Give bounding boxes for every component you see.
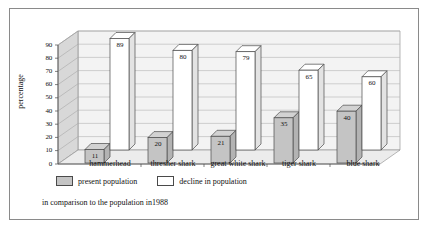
value-label-decline-4: 60 bbox=[361, 80, 383, 87]
y-tick-10: 10 bbox=[38, 147, 52, 154]
x-category-blue-shark: blue shark bbox=[323, 159, 403, 168]
chart-frame: 90 80 70 60 50 40 30 20 10 0 percentage … bbox=[9, 8, 419, 220]
y-tick-40: 40 bbox=[38, 108, 52, 115]
y-tick-80: 80 bbox=[38, 55, 52, 62]
y-tick-0: 0 bbox=[38, 161, 52, 168]
value-label-decline-3: 65 bbox=[298, 74, 320, 81]
chart-legend: present population decline in population bbox=[56, 176, 247, 186]
value-label-present-4: 40 bbox=[336, 115, 358, 122]
y-tick-90: 90 bbox=[38, 42, 52, 49]
legend-label-present: present population bbox=[78, 177, 137, 186]
legend-label-decline: decline in population bbox=[179, 177, 247, 186]
chart-stage: 90 80 70 60 50 40 30 20 10 0 percentage … bbox=[10, 9, 420, 221]
legend-item-present: present population bbox=[56, 176, 137, 186]
value-label-decline-0: 89 bbox=[109, 42, 131, 49]
legend-swatch-present bbox=[56, 176, 73, 186]
value-label-decline-1: 80 bbox=[172, 54, 194, 61]
chart-caption: in comparison to the population in1988 bbox=[42, 198, 168, 207]
legend-item-decline: decline in population bbox=[157, 176, 247, 186]
y-tick-60: 60 bbox=[38, 81, 52, 88]
y-axis-label: percentage bbox=[16, 64, 25, 120]
value-label-present-2: 21 bbox=[210, 140, 232, 147]
value-label-present-1: 20 bbox=[147, 141, 169, 148]
y-tick-20: 20 bbox=[38, 134, 52, 141]
chart-3d-canvas bbox=[10, 9, 420, 221]
y-tick-70: 70 bbox=[38, 68, 52, 75]
y-tick-50: 50 bbox=[38, 94, 52, 101]
y-tick-marks bbox=[55, 45, 58, 164]
legend-swatch-decline bbox=[157, 176, 174, 186]
value-label-decline-2: 79 bbox=[235, 55, 257, 62]
value-label-present-3: 35 bbox=[273, 121, 295, 128]
y-tick-30: 30 bbox=[38, 121, 52, 128]
